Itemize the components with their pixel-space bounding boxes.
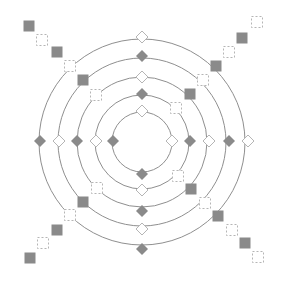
open-diamond-icon [136,31,148,43]
open-diamond-icon [242,135,254,147]
filled-square-icon [52,47,63,58]
open-square-icon [173,171,184,182]
filled-diamond-icon [71,135,83,147]
ring-1 [112,112,172,172]
open-square-icon [91,90,102,101]
filled-square-icon [185,89,196,100]
filled-square-icon [186,184,197,195]
filled-square-icon [78,197,89,208]
open-square-icon [224,47,235,58]
open-diamond-icon [136,223,148,235]
filled-square-icon [237,33,248,44]
filled-diamond-icon [136,88,148,100]
open-diamond-icon [136,184,148,196]
filled-square-icon [240,238,251,249]
open-square-icon [38,238,49,249]
filled-square-icon [211,61,222,72]
open-square-icon [65,210,76,221]
open-square-icon [37,35,48,46]
concentric-ring-diagram [0,0,282,285]
open-square-icon [252,17,263,28]
filled-diamond-icon [136,168,148,180]
open-square-icon [198,75,209,86]
open-square-icon [92,183,103,194]
filled-square-icon [24,21,35,32]
open-diamond-icon [136,105,148,117]
open-diamond-icon [90,135,102,147]
open-diamond-icon [166,135,178,147]
open-square-icon [253,252,264,263]
filled-diamond-icon [107,135,119,147]
filled-diamond-icon [136,50,148,62]
open-square-icon [171,103,182,114]
open-square-icon [200,198,211,209]
filled-square-icon [52,225,63,236]
filled-diamond-icon [184,135,196,147]
filled-square-icon [213,211,224,222]
filled-square-icon [78,75,89,86]
filled-diamond-icon [223,135,235,147]
open-diamond-icon [53,135,65,147]
open-square-icon [65,61,76,72]
open-diamond-icon [136,71,148,83]
filled-diamond-icon [34,135,46,147]
open-square-icon [227,225,238,236]
diagram-canvas [0,0,282,285]
filled-square-icon [25,253,36,264]
open-diamond-icon [203,135,215,147]
